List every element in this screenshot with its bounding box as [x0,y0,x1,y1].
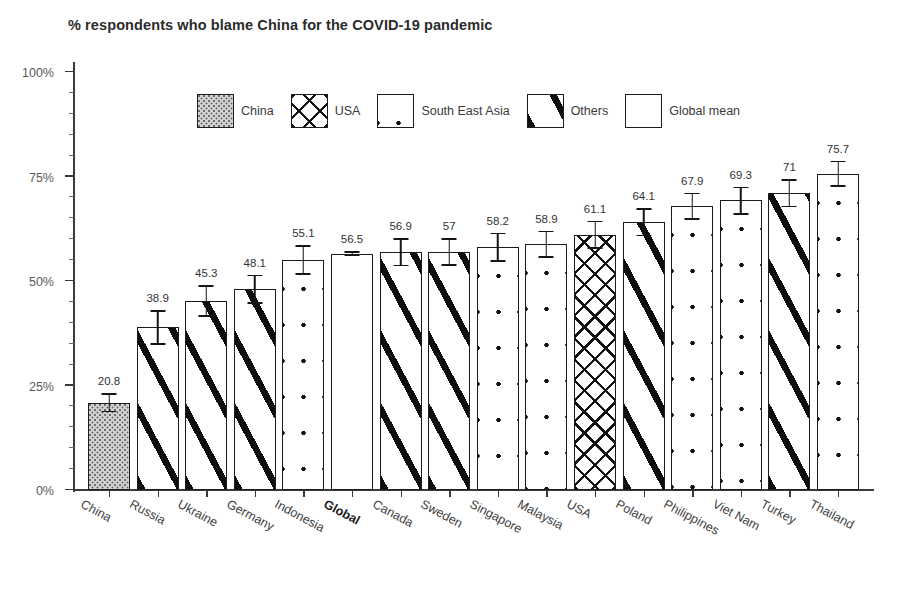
x-axis-tick [644,490,645,497]
bar-group[interactable]: 61.1 [574,72,616,490]
bar[interactable] [428,252,470,490]
error-bar-cap-bottom [102,411,117,413]
bar-group[interactable]: 45.3 [185,72,227,490]
error-bar-stem [108,393,110,412]
legend-item[interactable]: Global mean [625,94,740,128]
bar-group[interactable]: 58.2 [477,72,519,490]
chart-legend: ChinaUSASouth East AsiaOthersGlobal mean [197,94,757,128]
x-axis-tick [158,490,159,497]
bar-value-label: 20.8 [98,375,120,387]
legend-swatch-cross [291,94,328,128]
bar[interactable] [525,244,567,490]
error-bar-cap-bottom [636,235,651,237]
legend-item[interactable]: South East Asia [377,94,509,128]
bar[interactable] [234,289,276,490]
bar[interactable] [623,222,665,490]
bar-value-label: 58.9 [535,213,557,225]
bar-value-label: 55.1 [292,227,314,239]
error-bar-cap-bottom [588,247,603,249]
error-bar-stem [303,245,305,274]
error-bar-cap-bottom [831,185,846,187]
error-bar [150,310,165,344]
bar[interactable] [185,301,227,490]
error-bar-cap-bottom [733,213,748,215]
error-bar-stem [205,285,207,316]
bar-value-label: 61.1 [584,203,606,215]
x-axis-tick [692,490,693,497]
error-bar-cap-top [831,161,846,163]
legend-item[interactable]: USA [291,94,361,128]
error-bar [733,187,748,215]
bar-group[interactable]: 69.3 [720,72,762,490]
error-bar-cap-bottom [490,260,505,262]
y-axis-tick [65,489,74,490]
error-bar-cap-top [199,285,214,287]
error-bar-cap-top [636,208,651,210]
bar[interactable] [88,403,130,490]
x-axis-label: Ukraine [176,497,221,530]
legend-item[interactable]: China [197,94,274,128]
bar-group[interactable]: 56.9 [380,72,422,490]
error-bar-cap-top [150,310,165,312]
x-axis-label: Turkey [759,497,799,527]
error-bar-stem [448,238,450,266]
x-axis-label: Canada [370,497,415,530]
error-bar-stem [254,275,256,304]
x-axis-tick [546,490,547,497]
bar-group[interactable]: 57 [428,72,470,490]
bar[interactable] [720,200,762,490]
bar-value-label: 56.9 [389,220,411,232]
y-axis-tick-label: 25% [29,380,54,394]
bar-group[interactable]: 20.8 [88,72,130,490]
plot-area: 20.838.945.348.155.156.556.95758.258.961… [74,72,874,490]
bar-group[interactable]: 48.1 [234,72,276,490]
error-bar-stem [497,233,499,262]
bar[interactable] [477,247,519,490]
bar-value-label: 56.5 [341,233,363,245]
error-bar-cap-bottom [442,264,457,266]
bar-value-label: 48.1 [244,257,266,269]
x-axis-label: USA [564,497,593,521]
bar-value-label: 75.7 [827,143,849,155]
legend-item[interactable]: Others [527,94,609,128]
bar[interactable] [331,254,373,490]
error-bar-stem [546,231,548,258]
x-axis-tick [595,490,596,497]
error-bar [247,275,262,304]
bar[interactable] [574,235,616,490]
bar-value-label: 38.9 [146,292,168,304]
bar-group[interactable]: 67.9 [671,72,713,490]
bar[interactable] [817,174,859,490]
bar[interactable] [380,252,422,490]
bar-group[interactable]: 64.1 [623,72,665,490]
error-bar-cap-bottom [199,315,214,317]
bar-value-label: 45.3 [195,267,217,279]
chart-root: % respondents who blame China for the CO… [0,0,902,593]
x-axis-label: Thailand [807,497,856,532]
bar[interactable] [282,260,324,490]
bar[interactable] [768,193,810,490]
error-bar-cap-bottom [247,302,262,304]
x-axis-label: Sweden [419,497,465,531]
error-bar [636,208,651,236]
error-bar [588,221,603,249]
bar-group[interactable]: 56.5 [331,72,373,490]
x-axis-label: Germany [224,497,276,533]
bar[interactable] [671,206,713,490]
bar-group[interactable]: 75.7 [817,72,859,490]
error-bar-cap-top [345,251,360,253]
bar-group[interactable]: 71 [768,72,810,490]
error-bar-cap-bottom [345,255,360,257]
error-bar-stem [400,238,402,266]
error-bar [685,193,700,220]
chart-title: % respondents who blame China for the CO… [68,17,492,33]
x-axis-label: Malaysia [516,497,566,533]
bar-value-label: 64.1 [632,190,654,202]
bar-group[interactable]: 55.1 [282,72,324,490]
error-bar-stem [740,187,742,215]
y-axis-tick [65,71,74,72]
bar[interactable] [137,327,179,490]
bar-group[interactable]: 58.9 [525,72,567,490]
bar-group[interactable]: 38.9 [137,72,179,490]
legend-swatch-stipple [197,94,234,128]
